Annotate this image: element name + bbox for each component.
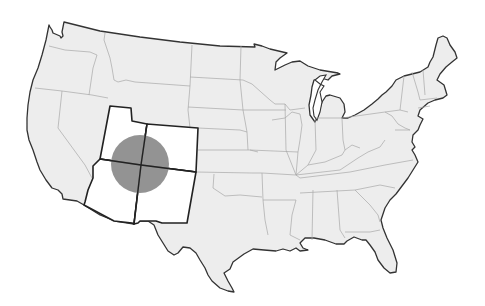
us-landmass xyxy=(27,22,457,292)
us-map xyxy=(0,0,485,306)
four-corners-marker xyxy=(111,135,169,193)
